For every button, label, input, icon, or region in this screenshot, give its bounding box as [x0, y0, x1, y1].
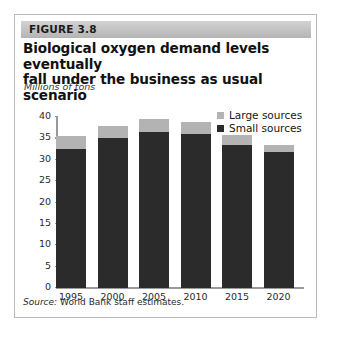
- legend-label: Large sources: [229, 109, 302, 121]
- source-prefix: Source:: [23, 297, 57, 307]
- bar-segment-large-sources: [56, 136, 86, 149]
- bar-segment-small-sources: [181, 134, 211, 288]
- bar-segment-large-sources: [222, 135, 252, 144]
- bar-segment-large-sources: [264, 145, 294, 153]
- y-axis-tick-label: 15: [39, 217, 51, 228]
- bar-segment-small-sources: [98, 138, 128, 288]
- legend-item: Large sources: [217, 109, 302, 121]
- bar-segment-small-sources: [56, 149, 86, 288]
- y-axis-tick-label: 25: [39, 174, 51, 185]
- y-axis-tick-label: 20: [39, 196, 51, 207]
- bar-segment-large-sources: [98, 126, 128, 139]
- bar-segment-small-sources: [264, 152, 294, 288]
- x-axis-tick-label: 2015: [217, 291, 257, 302]
- chart-title: Biological oxygen demand levels eventual…: [23, 41, 311, 103]
- chart-title-line-1: Biological oxygen demand levels eventual…: [23, 41, 311, 72]
- bar-segment-large-sources: [139, 119, 169, 132]
- figure-number-label: FIGURE 3.8: [29, 23, 97, 35]
- figure-header-band: FIGURE 3.8: [21, 21, 311, 38]
- bar-stack: [139, 119, 169, 288]
- bar-stack: [264, 145, 294, 288]
- legend-label: Small sources: [229, 122, 302, 134]
- plot-area: 0510152025303540 19952000200520102015202…: [21, 99, 311, 291]
- bar-stack: [222, 135, 252, 288]
- y-axis-tick-label: 40: [39, 110, 51, 121]
- bar-stack: [56, 136, 86, 288]
- bar-segment-small-sources: [139, 132, 169, 288]
- y-axis-tick-mark: [55, 116, 58, 117]
- chart-legend: Large sourcesSmall sources: [217, 109, 302, 135]
- legend-item: Small sources: [217, 122, 302, 134]
- x-axis-tick-label: 2020: [259, 291, 299, 302]
- figure-container: FIGURE 3.8 Biological oxygen demand leve…: [14, 14, 317, 318]
- legend-swatch: [217, 112, 224, 119]
- bar-stack: [98, 126, 128, 288]
- y-axis-unit-label: Millions of tons: [24, 81, 95, 92]
- bar-segment-small-sources: [222, 145, 252, 288]
- y-axis-tick-label: 35: [39, 131, 51, 142]
- source-text: World Bank staff estimates.: [60, 297, 184, 307]
- bar-segment-large-sources: [181, 122, 211, 134]
- source-note: Source: World Bank staff estimates.: [23, 297, 184, 307]
- y-axis-tick-label: 30: [39, 153, 51, 164]
- legend-swatch: [217, 125, 224, 132]
- bar-stack: [181, 122, 211, 288]
- y-axis-tick-label: 5: [45, 260, 51, 271]
- y-axis-tick-label: 10: [39, 238, 51, 249]
